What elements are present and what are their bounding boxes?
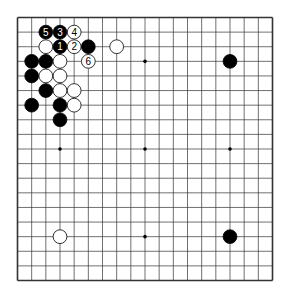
move-number-label: 5 [43, 27, 49, 38]
black-stone: 5 [39, 25, 53, 39]
white-stone [53, 54, 67, 68]
black-stone [223, 54, 237, 68]
move-number-label: 4 [71, 27, 77, 38]
white-stone [110, 40, 124, 54]
black-stone [39, 84, 53, 98]
white-stone: 4 [67, 25, 81, 39]
black-stone [25, 54, 39, 68]
white-stone [67, 98, 81, 112]
go-board[interactable]: 534126 [0, 0, 283, 299]
black-stone [39, 54, 53, 68]
move-number-label: 6 [86, 56, 92, 67]
black-stone [25, 69, 39, 83]
black-stone [53, 113, 67, 127]
white-stone: 6 [81, 54, 95, 68]
move-number-label: 2 [71, 41, 77, 52]
black-stone [81, 40, 95, 54]
white-stone: 2 [67, 40, 81, 54]
white-stone [53, 84, 67, 98]
star-point [58, 147, 62, 151]
black-stone: 1 [53, 40, 67, 54]
black-stone [53, 98, 67, 112]
star-point [143, 147, 147, 151]
star-point [143, 235, 147, 239]
move-number-label: 1 [57, 41, 63, 52]
white-stone [53, 230, 67, 244]
white-stone [39, 40, 53, 54]
white-stone [53, 69, 67, 83]
star-point [228, 147, 232, 151]
star-point [143, 60, 147, 64]
black-stone [25, 98, 39, 112]
black-stone [223, 230, 237, 244]
black-stone: 3 [53, 25, 67, 39]
move-number-label: 3 [57, 27, 63, 38]
white-stone [39, 69, 53, 83]
white-stone [67, 84, 81, 98]
